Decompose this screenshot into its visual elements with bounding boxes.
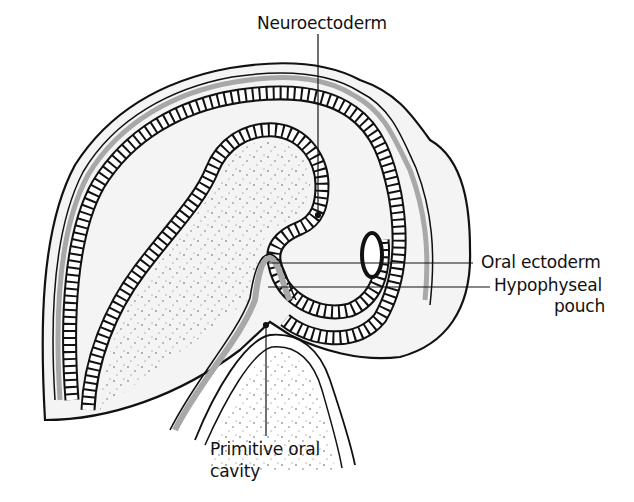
label-neuroectoderm: Neuroectoderm (257, 14, 387, 33)
label-hypophyseal-pouch-line1: Hypophyseal (494, 276, 602, 295)
diagram-canvas: Neuroectoderm Oral ectoderm Hypophyseal … (0, 0, 634, 502)
label-oral-ectoderm: Oral ectoderm (481, 253, 601, 272)
label-primitive-oral-cavity-line2: cavity (210, 462, 260, 481)
label-hypophyseal-pouch-line2: pouch (554, 297, 605, 316)
embryo-head-illustration (0, 0, 634, 502)
optic-vesicle (362, 233, 382, 277)
label-primitive-oral-cavity-line1: Primitive oral (210, 440, 320, 459)
